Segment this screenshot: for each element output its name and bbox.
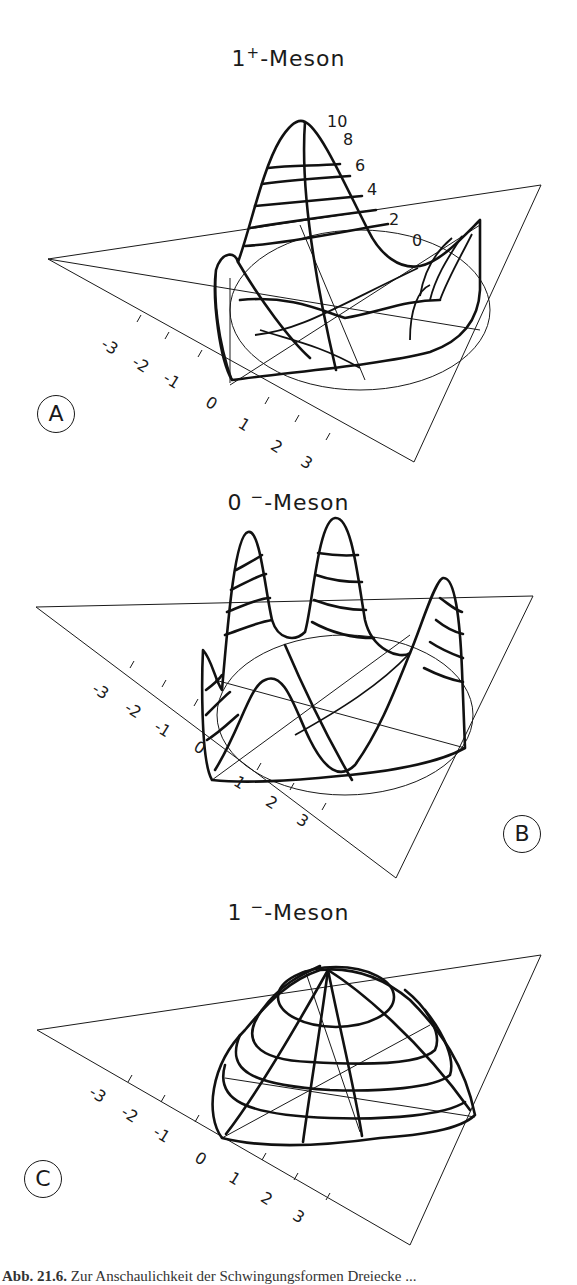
- svg-text:3: 3: [293, 810, 312, 832]
- surface-plot-c: -3 -2 -1 0 1 2 3: [0, 870, 577, 1270]
- svg-text:-2: -2: [118, 1102, 142, 1127]
- rib-line: [430, 236, 462, 300]
- contour-line: [430, 642, 463, 658]
- caption-text: Zur Anschaulichkeit der Schwingungsforme…: [71, 1268, 417, 1284]
- rib-line: [410, 285, 430, 340]
- contour-line: [255, 196, 362, 206]
- axis-tick-labels: -3 -2 -1 0 1 2 3: [98, 334, 316, 473]
- contour-line: [225, 620, 272, 635]
- svg-text:10: 10: [327, 112, 347, 131]
- contour-line: [314, 600, 366, 610]
- panel-label-a: A: [37, 395, 75, 433]
- surface-plot-b: -3 -2 -1 0 1 2 3: [0, 470, 577, 880]
- svg-text:8: 8: [343, 130, 353, 149]
- contour-line: [316, 575, 362, 582]
- contour-line: [424, 668, 463, 682]
- svg-text:-3: -3: [98, 334, 122, 359]
- svg-text:-1: -1: [160, 368, 184, 393]
- meridian-line: [238, 262, 310, 358]
- base-triangle: [37, 955, 541, 1245]
- median-line: [212, 635, 410, 780]
- svg-text:2: 2: [389, 210, 399, 229]
- panel-label-c: C: [24, 1160, 62, 1198]
- contour-line: [206, 692, 230, 715]
- contour-ring: [236, 1010, 451, 1090]
- svg-text:-1: -1: [150, 1122, 174, 1147]
- svg-text:6: 6: [355, 156, 365, 175]
- svg-text:2: 2: [267, 436, 286, 458]
- svg-text:4: 4: [367, 180, 377, 199]
- contour-line: [231, 574, 266, 590]
- panel-b: 0 −-Meson: [0, 470, 577, 870]
- axis-tick-labels: -3 -2 -1 0 1 2 3: [86, 1082, 308, 1227]
- z-axis-labels: 10 8 6 4 2 0: [327, 112, 422, 250]
- surface-plot-a: -3 -2 -1 0 1 2 3 10 8 6 4 2 0: [0, 0, 577, 470]
- central-bump-line: [215, 653, 410, 772]
- svg-text:2: 2: [257, 1188, 276, 1210]
- svg-text:1: 1: [225, 1168, 244, 1190]
- surface-outline: [202, 518, 465, 782]
- contour-line: [318, 553, 358, 555]
- contour-line: [440, 598, 462, 612]
- svg-text:0: 0: [412, 231, 422, 250]
- svg-text:0: 0: [191, 1148, 210, 1170]
- svg-text:2: 2: [262, 792, 281, 814]
- median-line: [230, 225, 480, 385]
- svg-text:1: 1: [235, 414, 254, 436]
- saddle-line: [260, 330, 360, 368]
- saddle-line: [240, 299, 440, 318]
- axis-tick-labels: -3 -2 -1 0 1 2 3: [89, 679, 312, 832]
- svg-text:-3: -3: [89, 679, 113, 704]
- panel-label-b: B: [503, 815, 541, 853]
- panel-c: 1 −-Meson -3 -2 -1 0: [0, 870, 577, 1260]
- svg-text:-2: -2: [129, 352, 153, 377]
- base-triangle: [36, 596, 533, 878]
- meridian-line: [285, 645, 352, 780]
- median-line: [215, 680, 465, 748]
- contour-line: [227, 598, 270, 612]
- svg-text:0: 0: [202, 392, 221, 414]
- svg-text:-3: -3: [86, 1082, 110, 1107]
- panel-a: 1+-Meson: [0, 0, 577, 470]
- caption-label: Abb. 21.6.: [2, 1268, 67, 1284]
- contour-line: [236, 555, 262, 570]
- base-triangle: [48, 185, 541, 462]
- svg-text:-1: -1: [151, 717, 175, 742]
- figure-caption: Abb. 21.6. Zur Anschaulichkeit der Schwi…: [0, 1268, 577, 1285]
- svg-text:-2: -2: [121, 698, 145, 723]
- svg-text:3: 3: [289, 1206, 308, 1228]
- contour-line: [250, 210, 376, 228]
